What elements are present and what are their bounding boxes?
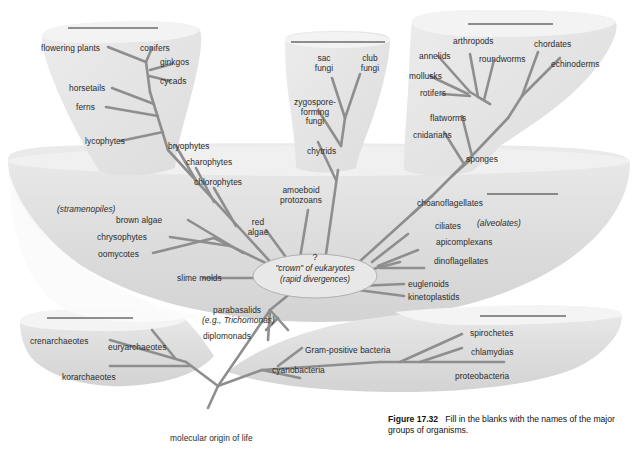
label-cyanobacteria: cyanobacteria — [272, 366, 325, 376]
label-chrysophytes: chrysophytes — [97, 233, 147, 243]
label-gram-positive-bacteria: Gram-positive bacteria — [305, 346, 390, 356]
label-spirochetes: spirochetes — [470, 329, 513, 339]
label-red-algae: red algae — [243, 218, 273, 237]
label-euglenoids: euglenoids — [408, 280, 449, 290]
label-stramenopiles: (stramenopiles) — [57, 205, 115, 215]
label-diplomonads: diplomonads — [203, 332, 251, 342]
label-parabasalids-example: (e.g., Trichomonas) — [202, 316, 275, 326]
label-chytrids: chytrids — [307, 147, 336, 157]
label-echinoderms: echinoderms — [551, 60, 600, 70]
label-oomycotes: oomycotes — [98, 250, 139, 260]
label-amoeboid-protozoans: amoeboid protozoans — [270, 186, 332, 205]
label-club-fungi: club fungi — [352, 54, 388, 73]
label-conifers: conifers — [140, 44, 170, 54]
label-horsetails: horsetails — [69, 84, 105, 94]
branch-root — [208, 386, 218, 408]
crown-label-line1: "crown" of eukaryotes — [258, 264, 372, 274]
label-cycads: cycads — [160, 77, 186, 87]
label-lycophytes: lycophytes — [85, 137, 125, 147]
label-korarchaeotes: korarchaeotes — [62, 373, 116, 383]
label-annelids: annelids — [419, 52, 451, 62]
label-sac-fungi: sac fungi — [306, 54, 342, 73]
crown-question-mark: ? — [284, 252, 346, 262]
label-apicomplexans: apicomplexans — [436, 238, 493, 248]
label-rotifers: rotifers — [420, 89, 446, 99]
label-charophytes: charophytes — [186, 158, 232, 168]
label-flowering-plants: flowering plants — [41, 44, 100, 54]
label-arthropods: arthropods — [453, 37, 494, 47]
label-molecular-origin-of-life: molecular origin of life — [170, 434, 253, 444]
label-chlamydias: chlamydias — [471, 348, 513, 358]
label-slime-molds: slime molds — [177, 274, 222, 284]
label-proteobacteria: proteobacteria — [455, 372, 509, 382]
label-cnidarians: cnidarians — [413, 131, 452, 141]
label-flatworms: flatworms — [430, 114, 466, 124]
label-bryophytes: bryophytes — [168, 142, 209, 152]
crown-label-line2: (rapid divergences) — [258, 275, 372, 285]
label-ferns: ferns — [76, 103, 95, 113]
figure-number: Figure 17.32 — [388, 414, 438, 424]
label-dinoflagellates: dinoflagellates — [434, 257, 488, 267]
label-alveolates: (alveolates) — [477, 219, 521, 229]
figure-canvas: flowering plants conifers ginkgos cycads… — [0, 0, 638, 457]
label-crenarchaeotes: crenarchaeotes — [30, 337, 88, 347]
label-euryarchaeotes: euryarchaeotes — [108, 343, 166, 353]
label-sponges: sponges — [466, 155, 498, 165]
label-chlorophytes: chlorophytes — [194, 178, 242, 188]
label-roundworms: roundworms — [479, 55, 526, 65]
label-choanoflagellates: choanoflagellates — [417, 199, 483, 209]
fungi-rim — [285, 32, 390, 48]
label-zygospore-forming-fungi: zygospore- forming fungi — [286, 98, 344, 127]
label-chordates: chordates — [534, 40, 571, 50]
label-ginkgos: ginkgos — [160, 58, 189, 68]
label-brown-algae: brown algae — [116, 216, 162, 226]
label-mollusks: mollusks — [409, 72, 442, 82]
label-kinetoplastids: kinetoplastids — [408, 293, 459, 303]
figure-caption: Figure 17.32 Fill in the blanks with the… — [388, 414, 632, 437]
label-ciliates: ciliates — [435, 222, 461, 232]
